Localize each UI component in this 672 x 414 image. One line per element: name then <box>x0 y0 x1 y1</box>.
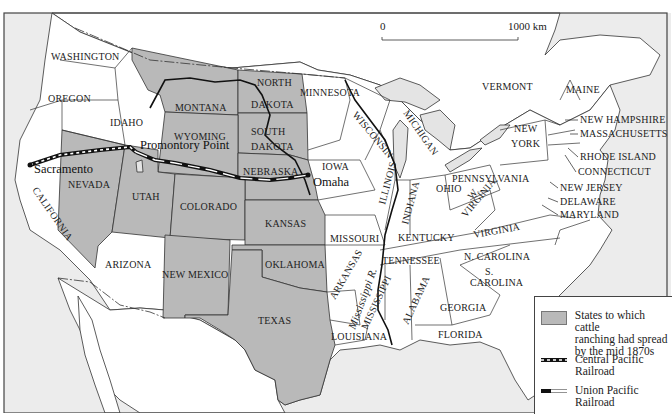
label-arizona: ARIZONA <box>105 259 152 270</box>
label-sacramento: Sacramento <box>34 162 93 176</box>
label-south-carolina-2: CAROLINA <box>470 277 524 288</box>
label-washington: WASHINGTON <box>51 51 119 62</box>
label-nevada: NEVADA <box>68 179 111 190</box>
label-missouri: MISSOURI <box>330 233 379 244</box>
label-delaware: DELAWARE <box>560 196 616 207</box>
label-florida: FLORIDA <box>438 329 483 340</box>
label-maine: MAINE <box>566 84 600 95</box>
label-texas: TEXAS <box>258 315 291 326</box>
label-maryland: MARYLAND <box>560 209 619 220</box>
label-south-dakota-1: SOUTH <box>251 126 285 137</box>
label-idaho: IDAHO <box>110 117 143 128</box>
svg-text:1000 km: 1000 km <box>508 20 547 32</box>
label-nebraska: NEBRASKA <box>243 166 299 177</box>
legend-item-union-pacific: Union Pacific Railroad <box>541 384 639 408</box>
legend-item-cattle: States to which cattle ranching had spre… <box>541 309 672 357</box>
label-iowa: IOWA <box>322 161 349 172</box>
legend: States to which cattle ranching had spre… <box>534 296 672 414</box>
central-pacific-swatch-icon <box>541 355 567 365</box>
label-massachusetts: MASSACHUSETTS <box>580 128 668 139</box>
label-new-york-1: NEW <box>514 123 538 134</box>
label-minnesota: MINNESOTA <box>300 87 360 98</box>
label-north-dakota-2: DAKOTA <box>251 99 294 110</box>
label-north-carolina: N. CAROLINA <box>464 251 531 262</box>
label-utah: UTAH <box>132 191 160 202</box>
union-pacific-swatch-icon <box>541 386 567 396</box>
label-kentucky: KENTUCKY <box>398 232 455 243</box>
label-connecticut: CONNECTICUT <box>578 166 651 177</box>
label-north-dakota-1: NORTH <box>257 77 292 88</box>
label-kansas: KANSAS <box>265 218 306 229</box>
label-new-jersey: NEW JERSEY <box>560 182 623 193</box>
label-ohio: OHIO <box>436 183 462 194</box>
cattle-swatch <box>541 311 567 325</box>
label-south-dakota-2: DAKOTA <box>251 141 294 152</box>
label-new-mexico: NEW MEXICO <box>162 269 229 280</box>
label-oregon: OREGON <box>48 93 91 104</box>
label-new-hampshire: NEW HAMPSHIRE <box>580 114 665 125</box>
svg-text:0: 0 <box>380 20 386 32</box>
label-tennessee: TENNESSEE <box>382 255 440 266</box>
label-new-york-2: YORK <box>511 138 541 149</box>
great-salt-lake <box>136 160 143 172</box>
label-rhode-island: RHODE ISLAND <box>580 151 656 162</box>
label-louisiana: LOUISIANA <box>331 331 388 342</box>
label-omaha: Omaha <box>313 175 350 189</box>
label-colorado: COLORADO <box>180 201 237 212</box>
label-georgia: GEORGIA <box>440 302 487 313</box>
omaha-marker <box>306 173 311 178</box>
label-pennsylvania: PENNSYLVANIA <box>452 173 530 184</box>
label-vermont: VERMONT <box>482 81 533 92</box>
legend-item-central-pacific: Central Pacific Railroad <box>541 353 644 377</box>
label-promontory-point: Promontory Point <box>140 138 230 152</box>
label-south-carolina-1: S. <box>485 266 493 277</box>
label-montana: MONTANA <box>175 102 227 113</box>
label-oklahoma: OKLAHOMA <box>265 259 326 270</box>
sacramento-marker <box>28 163 33 168</box>
